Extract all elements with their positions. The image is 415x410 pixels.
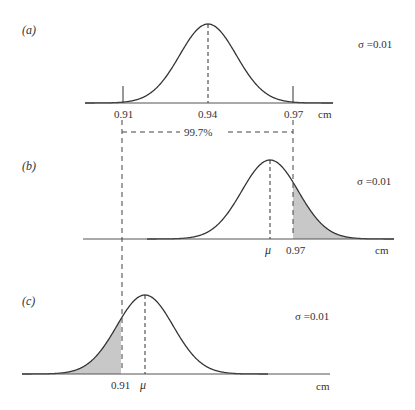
bell-curve-a [85, 24, 333, 103]
shaded-tail-regions [22, 102, 394, 374]
panel-label-b: (b) [22, 159, 36, 173]
bell-curve-b [147, 160, 394, 239]
mu-label-b: μ [264, 243, 271, 257]
panel-label-a: (a) [22, 23, 36, 37]
tick-0-97-b: 0.97 [286, 244, 306, 256]
shaded-region-b-0 [293, 182, 394, 239]
panel-label-c: (c) [22, 294, 35, 308]
shaded-region-c-0 [22, 319, 121, 374]
unit-label-b: cm [375, 244, 389, 256]
normal-distribution-diagram: (a) σ =0.01 0.91 0.94 0.97 cm 99.7% (b) … [0, 0, 415, 410]
sigma-label-b: σ =0.01 [357, 175, 391, 187]
tick-0-91-a: 0.91 [114, 108, 133, 120]
tick-0-91-c: 0.91 [111, 379, 130, 391]
unit-label-a: cm [318, 108, 332, 120]
tick-0-97-a: 0.97 [284, 108, 304, 120]
tick-0-94-a: 0.94 [198, 108, 218, 120]
diagram-svg: (a) σ =0.01 0.91 0.94 0.97 cm 99.7% (b) … [0, 0, 415, 410]
bell-curve-c [22, 295, 268, 374]
mu-label-c: μ [139, 378, 146, 392]
percent-label: 99.7% [184, 126, 212, 138]
sigma-label-a: σ =0.01 [358, 38, 392, 50]
sigma-label-c: σ =0.01 [295, 310, 329, 322]
unit-label-c: cm [316, 380, 330, 392]
